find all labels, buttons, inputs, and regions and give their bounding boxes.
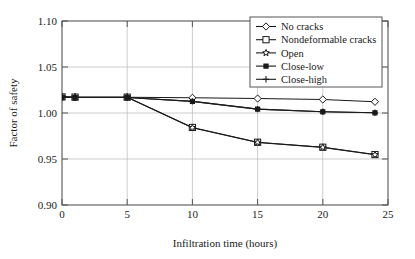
legend-label: Nondeformable cracks [281,34,376,45]
x-tick-label: 15 [252,208,264,220]
y-axis-title: Factor of safety [7,78,19,148]
data-series-group [58,93,378,157]
x-tick-label: 20 [317,208,329,220]
x-tick-label: 10 [187,208,199,220]
legend-label: No cracks [281,21,323,32]
x-tick-label: 0 [59,208,65,220]
y-axis-tick-labels: 0.900.951.001.051.10 [38,15,58,211]
y-tick-label: 0.95 [38,153,58,165]
data-point-marker [254,95,261,102]
data-point-marker [263,37,269,43]
legend-label: Open [281,48,304,59]
data-point-marker [371,98,378,105]
chart-legend: No cracksNondeformable cracksOpenClose-l… [250,17,382,87]
legend-label: Close-low [281,61,325,72]
series-no-cracks [58,93,378,105]
x-tick-label: 25 [383,208,395,220]
y-tick-label: 1.10 [38,15,58,27]
chart-figure: 0510152025 0.900.951.001.051.10 Infiltra… [0,0,415,259]
line-chart: 0510152025 0.900.951.001.051.10 Infiltra… [0,0,415,259]
legend-label: Close-high [281,74,328,85]
x-tick-label: 5 [124,208,130,220]
x-axis-title: Infiltration time (hours) [173,237,278,250]
legend-item-no-cracks[interactable]: No cracks [256,21,323,32]
data-point-marker [264,64,268,68]
series-open [59,93,379,157]
data-point-marker [319,96,326,103]
y-tick-label: 0.90 [38,199,58,211]
x-axis-tick-labels: 0510152025 [59,208,394,220]
y-tick-label: 1.05 [38,61,58,73]
y-tick-label: 1.00 [38,107,58,119]
